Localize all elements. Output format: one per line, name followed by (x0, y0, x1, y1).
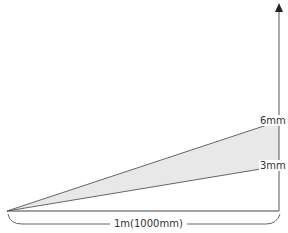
label-6mm: 6mm (259, 115, 287, 126)
label-3mm: 3mm (259, 160, 287, 171)
arrow-up-icon (275, 3, 283, 12)
diagram-canvas (0, 0, 288, 233)
label-distance: 1m(1000mm) (110, 218, 187, 229)
